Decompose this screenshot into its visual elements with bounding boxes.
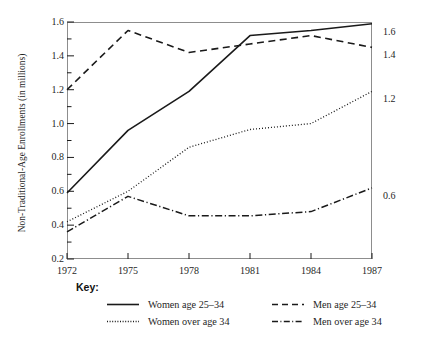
x-tick-label: 1972 <box>44 266 90 276</box>
x-tick-label: 1984 <box>288 266 334 276</box>
legend-title: Key: <box>76 281 99 293</box>
legend-swatch-dashdot-icon <box>271 315 305 328</box>
legend-label: Women age 25–34 <box>148 299 224 311</box>
legend-label: Men age 25–34 <box>313 299 376 311</box>
chart-figure: Non-Traditional-Age Enrollments (in mill… <box>0 0 434 337</box>
series-end-label-2: 1.2 <box>383 94 396 104</box>
legend-label: Men over age 34 <box>313 316 382 328</box>
legend-label: Women over age 34 <box>148 316 230 328</box>
legend-swatch-solid-icon <box>106 298 140 311</box>
chart-legend: Key: Women age 25–34 Women over age 34 M… <box>76 281 426 331</box>
series-end-label-0: 1.6 <box>383 27 396 37</box>
series-end-label-3: 0.6 <box>383 191 396 201</box>
legend-swatch-dashed-icon <box>271 298 305 311</box>
legend-swatch-dotted-icon <box>106 315 140 328</box>
x-tick-label: 1981 <box>227 266 273 276</box>
x-tick-label: 1987 <box>349 266 395 276</box>
series-end-label-1: 1.4 <box>383 50 396 60</box>
x-tick-label: 1975 <box>105 266 151 276</box>
x-tick-label: 1978 <box>166 266 212 276</box>
